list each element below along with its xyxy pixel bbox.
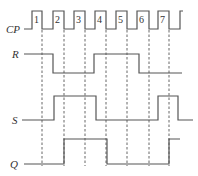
pulse-number-6: 6 (139, 14, 144, 25)
pulse-number-5: 5 (118, 14, 123, 25)
pulse-number-1: 1 (34, 14, 39, 25)
pulse-number-7: 7 (160, 14, 165, 25)
pulse-number-2: 2 (55, 14, 60, 25)
s-label: S (12, 114, 18, 126)
r-waveform (24, 54, 182, 73)
timing-diagram: CP 1 2 3 4 5 6 7 R S Q (0, 0, 198, 176)
clock-pulse-numbers: 1 2 3 4 5 6 7 (34, 14, 165, 25)
s-waveform (22, 96, 193, 120)
q-waveform (24, 139, 180, 164)
pulse-number-3: 3 (76, 14, 81, 25)
r-label: R (11, 48, 19, 60)
cp-label: CP (6, 23, 20, 35)
clock-falling-edge-markers (42, 30, 169, 166)
pulse-number-4: 4 (97, 14, 102, 25)
q-label: Q (10, 158, 18, 170)
